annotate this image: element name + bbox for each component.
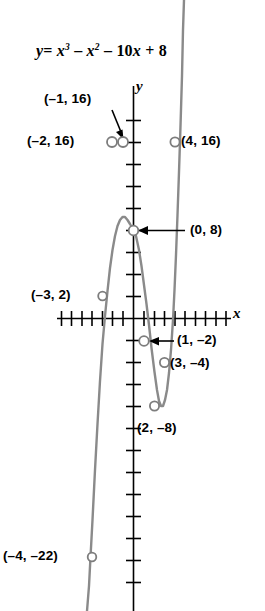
graph-figure: y= x3 – x2 – 10x + 8 — [0, 0, 265, 611]
point-marker-neg4-neg22[interactable] — [88, 553, 97, 562]
point-label-4-16: (4, 16) — [181, 133, 221, 148]
point-marker-neg1-16[interactable] — [118, 137, 128, 147]
point-label-0-8: (0, 8) — [190, 222, 222, 237]
point-label-1-neg2: (1, –2) — [177, 332, 217, 347]
point-marker-2-neg8[interactable] — [150, 401, 159, 410]
point-label-neg2-16: (–2, 16) — [27, 133, 74, 148]
point-marker-1-neg2[interactable] — [139, 336, 149, 346]
point-label-neg3-2: (–3, 2) — [31, 287, 71, 302]
point-marker-neg3-2[interactable] — [98, 292, 107, 301]
point-label-neg1-16: (–1, 16) — [44, 91, 91, 106]
point-label-2-neg8: (2, –8) — [137, 420, 177, 435]
point-marker-4-16[interactable] — [170, 137, 179, 146]
x-axis-label: x — [233, 305, 241, 322]
y-axis-label: y — [136, 78, 143, 95]
point-marker-neg2-16[interactable] — [107, 137, 117, 147]
coordinate-plane — [0, 0, 265, 611]
point-marker-0-8[interactable] — [129, 226, 139, 236]
point-label-neg4-neg22: (–4, –22) — [3, 548, 58, 563]
annotation-arrow-negone-sixteen — [112, 110, 124, 140]
point-marker-3-neg4[interactable] — [160, 358, 169, 367]
point-label-3-neg4: (3, –4) — [170, 355, 210, 370]
